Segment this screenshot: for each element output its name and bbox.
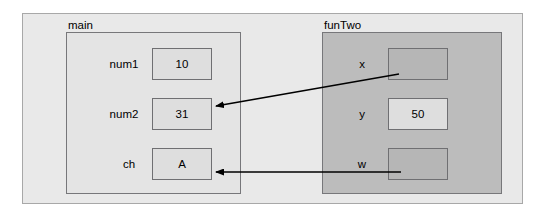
variable-box-x (388, 48, 448, 80)
variable-box-y: 50 (388, 98, 448, 130)
variable-label-w: w (350, 157, 374, 171)
variable-box-num1: 10 (152, 48, 212, 80)
variable-label-num2: num2 (106, 107, 142, 121)
variable-label-ch: ch (117, 157, 141, 171)
scope-label-funtwo: funTwo (324, 19, 361, 32)
scope-label-main: main (68, 19, 93, 32)
variable-box-w (388, 148, 448, 180)
diagram-canvas: main num1 10 num2 31 ch A funTwo x y 50 … (0, 0, 545, 220)
variable-label-x: x (352, 57, 372, 71)
variable-label-y: y (352, 107, 372, 121)
variable-label-num1: num1 (106, 57, 142, 71)
variable-box-ch: A (152, 148, 212, 180)
variable-box-num2: 31 (152, 98, 212, 130)
